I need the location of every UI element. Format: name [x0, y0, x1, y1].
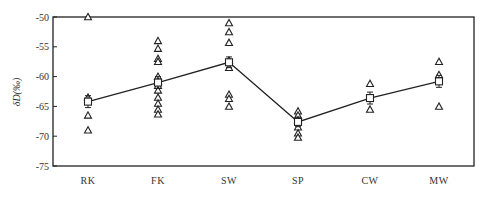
square-marker [367, 95, 374, 102]
y-tick-label: -70 [36, 131, 49, 142]
x-axis-categories: RKFKSWSPCWMW [81, 175, 449, 186]
mean-line [88, 62, 439, 122]
triangle-marker [155, 45, 162, 51]
x-category-label: SP [292, 175, 304, 186]
x-category-label: FK [151, 175, 165, 186]
triangle-marker [85, 127, 92, 133]
x-category-label: CW [361, 175, 378, 186]
chart: -50-55-60-65-70-75 δD(‰) RKFKSWSPCWMW [0, 0, 488, 198]
square-marker [436, 78, 443, 85]
triangle-marker [226, 28, 233, 34]
x-category-label: MW [429, 175, 448, 186]
y-axis-label: δD(‰) [11, 77, 23, 106]
x-category-label: RK [81, 175, 96, 186]
triangle-marker [436, 103, 443, 109]
y-tick-label: -65 [36, 101, 49, 112]
y-tick-label: -60 [36, 71, 49, 82]
triangle-marker [226, 103, 233, 109]
y-tick-label: -75 [36, 161, 49, 172]
square-marker [295, 118, 302, 125]
mean-series [85, 57, 443, 127]
y-tick-label: -55 [36, 41, 49, 52]
square-marker [226, 59, 233, 66]
y-tick-label: -50 [36, 12, 49, 23]
triangle-marker [226, 19, 233, 25]
triangle-marker [226, 39, 233, 45]
square-marker [85, 98, 92, 105]
triangle-marker [367, 80, 374, 86]
square-marker [155, 79, 162, 86]
y-axis: -50-55-60-65-70-75 [36, 12, 57, 172]
triangle-marker [367, 106, 374, 112]
x-category-label: SW [221, 175, 237, 186]
sample-points [85, 14, 443, 141]
triangle-marker [155, 37, 162, 43]
triangle-marker [436, 58, 443, 64]
triangle-marker [85, 112, 92, 118]
